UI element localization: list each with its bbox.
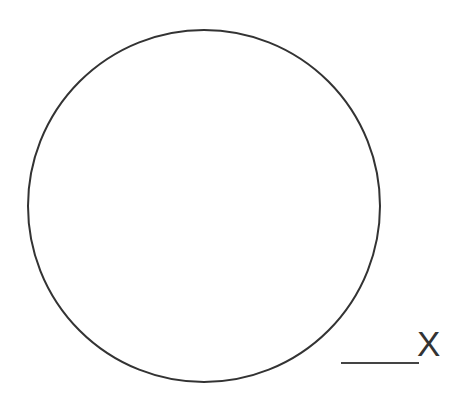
x-label: X [417, 326, 440, 361]
circle-diagram [0, 0, 461, 403]
circle-shape [28, 30, 380, 382]
